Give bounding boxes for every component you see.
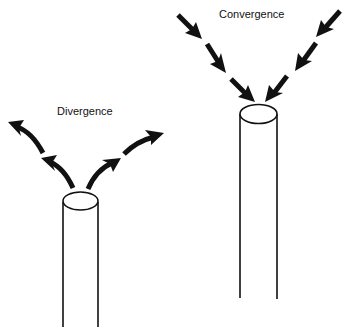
divergence-arrow-right-inner <box>88 158 121 189</box>
divergence-arrow-right-outer <box>124 130 164 154</box>
convergence-arrows-right-chain <box>265 11 340 102</box>
divergence-convergence-diagram: Divergence <box>0 0 350 334</box>
convergence-arrow-right-1 <box>316 11 340 37</box>
convergence-cylinder-top <box>240 105 277 124</box>
convergence-cylinder <box>240 105 277 300</box>
convergence-arrow-right-2 <box>295 43 316 71</box>
divergence-label: Divergence <box>57 105 113 117</box>
divergence-arrow-left-outer <box>8 120 43 153</box>
convergence-arrow-left-2 <box>207 44 226 73</box>
divergence-cylinder-top <box>63 192 98 210</box>
convergence-arrow-left-1 <box>178 15 202 39</box>
convergence-arrows-left-chain <box>178 15 255 102</box>
convergence-panel: Convergence <box>178 8 340 299</box>
divergence-cylinder <box>63 192 98 327</box>
divergence-panel: Divergence <box>8 105 164 327</box>
divergence-arrow-left-inner <box>41 155 73 188</box>
convergence-arrow-left-3 <box>231 79 255 102</box>
convergence-label: Convergence <box>219 8 284 20</box>
divergence-arrows <box>8 120 164 189</box>
convergence-arrow-right-3 <box>265 76 287 102</box>
